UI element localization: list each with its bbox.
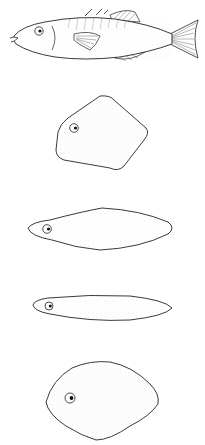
fusiform-body-shape bbox=[28, 208, 172, 250]
elongate-body-shape bbox=[33, 295, 172, 320]
deep-body-shape bbox=[46, 362, 158, 440]
fusiform-fish-illustration bbox=[10, 9, 198, 61]
compressed-rhomboid-shape bbox=[56, 96, 148, 170]
fish-body-shapes-diagram bbox=[0, 0, 205, 445]
